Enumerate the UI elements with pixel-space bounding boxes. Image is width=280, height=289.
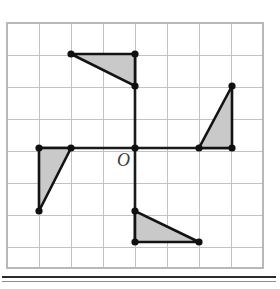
- vertex-dot: [228, 82, 235, 89]
- vertex-dot: [195, 144, 202, 151]
- figure-container: O: [0, 0, 280, 289]
- origin-label: O: [117, 150, 130, 170]
- vertex-dot: [131, 144, 138, 151]
- vertex-dot: [67, 144, 74, 151]
- vertex-dot: [195, 238, 202, 245]
- vertex-dot: [35, 144, 42, 151]
- figure-background: [0, 0, 280, 289]
- vertex-dot: [131, 238, 138, 245]
- vertex-dot: [131, 82, 138, 89]
- vertex-dot: [67, 50, 74, 57]
- vertex-dot: [131, 50, 138, 57]
- vertex-dot: [35, 207, 42, 214]
- vertex-dot: [131, 207, 138, 214]
- vertex-dot: [228, 144, 235, 151]
- coordinate-grid-figure: O: [0, 0, 280, 289]
